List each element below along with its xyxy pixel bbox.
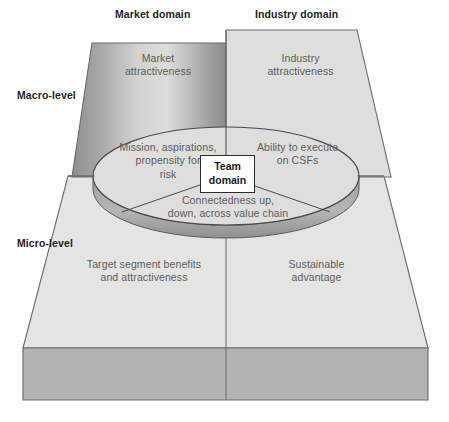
team-domain-line1: Team — [214, 160, 241, 174]
team-segment-line1: Connectedness up, — [140, 194, 316, 207]
team-domain-box: Team domain — [200, 155, 255, 193]
macro-level-label: Macro-level — [17, 89, 76, 102]
panel-label-line1: Sustainable — [264, 258, 369, 271]
team-segment-line1: Mission, aspirations, — [104, 141, 232, 154]
panel-label-target-segment-benefits: Target segment benefits and attractivene… — [68, 258, 220, 285]
panel-label-line2: attractiveness — [108, 65, 208, 78]
panel-label-line2: and attractiveness — [68, 271, 220, 284]
diagram-canvas: Market domain Industry domain Macro-leve… — [0, 0, 449, 422]
panel-label-industry-attractiveness: Industry attractiveness — [248, 52, 353, 79]
base-slab — [23, 348, 428, 400]
micro-level-label: Micro-level — [17, 237, 73, 250]
team-segment-ability-to-execute: Ability to execute on CSFs — [245, 141, 350, 168]
panel-label-line1: Market — [108, 52, 208, 65]
market-domain-title: Market domain — [115, 8, 190, 21]
team-segment-line1: Ability to execute — [245, 141, 350, 154]
team-domain-line2: domain — [209, 174, 246, 188]
panel-label-sustainable-advantage: Sustainable advantage — [264, 258, 369, 285]
team-segment-line2: down, across value chain — [140, 207, 316, 220]
panel-label-market-attractiveness: Market attractiveness — [108, 52, 208, 79]
panel-label-line2: advantage — [264, 271, 369, 284]
panel-label-line2: attractiveness — [248, 65, 353, 78]
industry-domain-title: Industry domain — [255, 8, 338, 21]
team-segment-line2: on CSFs — [245, 154, 350, 167]
panel-label-line1: Target segment benefits — [68, 258, 220, 271]
panel-label-line1: Industry — [248, 52, 353, 65]
team-segment-connectedness: Connectedness up, down, across value cha… — [140, 194, 316, 221]
